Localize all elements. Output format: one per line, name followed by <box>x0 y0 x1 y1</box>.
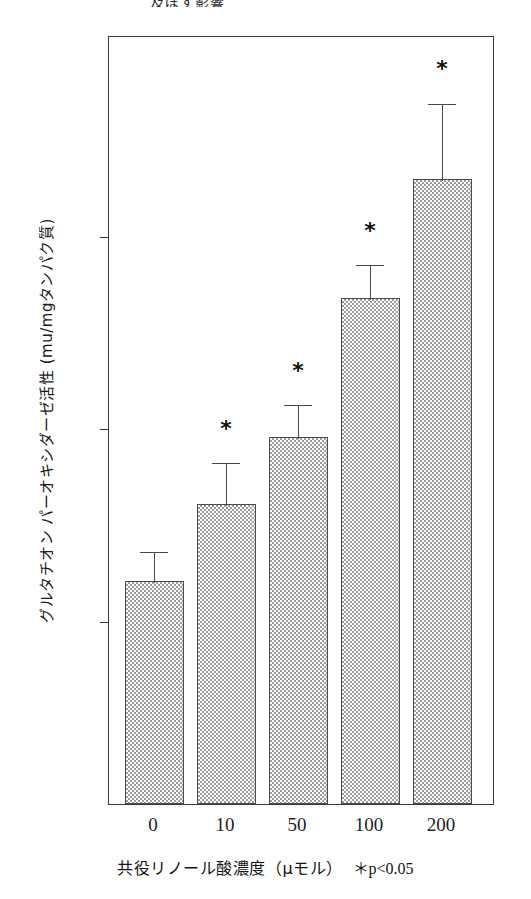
error-bar-cap-1 <box>212 463 240 464</box>
significance-star-4: * <box>436 58 448 80</box>
x-tick-label-4: 200 <box>427 815 456 834</box>
bar-category-0 <box>125 581 184 804</box>
bar-category-2 <box>269 437 328 804</box>
x-tick-label-3: 100 <box>355 815 384 834</box>
glutathione-peroxidase-bar-chart: グルタチオン パーオキシダーゼ活性 (mu/mgタンパク質) 1 0.75 0.… <box>0 0 531 899</box>
error-bar-stem-2 <box>298 405 299 439</box>
significance-star-3: * <box>364 220 376 242</box>
y-tick-mark-05 <box>100 429 109 430</box>
bar-category-3 <box>341 298 400 804</box>
error-bar-stem-4 <box>442 104 443 181</box>
y-tick-mark-025 <box>100 622 109 623</box>
significance-star-1: * <box>220 418 232 440</box>
x-tick-label-2: 50 <box>288 815 307 834</box>
x-axis-title-text: 共役リノール酸濃度（μモル） <box>117 859 342 878</box>
plot-area: * * * * <box>109 37 493 804</box>
error-bar-stem-3 <box>370 265 371 300</box>
error-bar-cap-3 <box>356 265 384 266</box>
significance-note: ＊p<0.05 <box>353 860 414 877</box>
error-bar-cap-4 <box>428 104 456 105</box>
bar-category-1 <box>197 504 256 804</box>
error-bar-cap-0 <box>140 552 168 553</box>
error-bar-cap-2 <box>284 405 312 406</box>
plot-frame: * * * * <box>108 36 494 805</box>
error-bar-stem-0 <box>154 552 155 583</box>
x-axis-title: 共役リノール酸濃度（μモル）＊p<0.05 <box>0 855 531 879</box>
significance-star-2: * <box>292 360 304 382</box>
error-bar-stem-1 <box>226 463 227 506</box>
y-tick-mark-075 <box>100 237 109 238</box>
x-tick-label-0: 0 <box>148 815 158 834</box>
y-axis-title: グルタチオン パーオキシダーゼ活性 (mu/mgタンパク質) <box>30 36 60 805</box>
bar-category-4 <box>413 179 472 804</box>
x-tick-label-1: 10 <box>216 815 235 834</box>
